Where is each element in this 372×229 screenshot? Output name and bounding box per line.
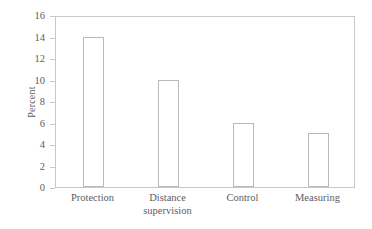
bar-1 (158, 80, 179, 188)
y-tick-label: 0 (40, 181, 45, 195)
y-tick-mark (50, 188, 55, 189)
y-tick-label: 14 (35, 31, 46, 45)
x-axis-label-0: Protection (55, 191, 130, 204)
y-tick-label: 2 (40, 160, 45, 174)
y-tick-label: 16 (35, 9, 46, 23)
y-tick-label: 6 (40, 117, 45, 131)
bar-3 (308, 133, 329, 187)
y-tick-label: 10 (35, 74, 46, 88)
y-tick-label: 8 (40, 95, 45, 109)
x-axis-label-1: Distance supervision (130, 191, 205, 217)
y-tick-label: 4 (40, 138, 45, 152)
y-tick-label: 12 (35, 52, 46, 66)
bar-2 (233, 123, 254, 188)
x-axis-label-2: Control (205, 191, 280, 204)
plot-area (55, 16, 355, 188)
x-axis-label-3: Measuring (280, 191, 355, 204)
bar-chart: Percent 0246810121416 ProtectionDistance… (0, 0, 372, 229)
bar-0 (83, 37, 104, 188)
